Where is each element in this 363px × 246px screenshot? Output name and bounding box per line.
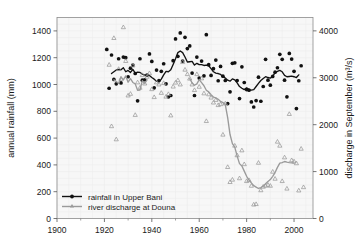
legend-label-discharge: river discharge at Douna — [88, 203, 176, 212]
legend-label-rainfall: rainfall in Upper Bani — [88, 193, 162, 202]
data-point — [240, 65, 244, 69]
y2-tick-label: 4000 — [319, 26, 338, 36]
data-point — [285, 95, 289, 99]
data-point — [193, 94, 197, 98]
data-point — [204, 33, 208, 37]
data-point — [219, 65, 223, 69]
data-point — [268, 83, 272, 87]
data-point — [148, 52, 152, 56]
y-tick-label: 600 — [37, 133, 51, 143]
data-point — [250, 100, 254, 104]
x-tick-label: 1900 — [48, 225, 67, 235]
x-tick-label: 1960 — [190, 225, 209, 235]
data-point — [136, 99, 140, 103]
data-point — [200, 59, 204, 63]
y2-tick-label: 1000 — [319, 167, 338, 177]
data-point — [252, 105, 256, 109]
data-point — [110, 53, 114, 57]
data-point — [297, 79, 301, 83]
x-tick-label: 2000 — [285, 225, 304, 235]
x-tick-label: 1940 — [142, 225, 161, 235]
data-point — [292, 70, 296, 74]
data-point — [117, 57, 121, 61]
y-tick-label: 0 — [46, 214, 51, 224]
data-point — [159, 70, 163, 74]
rainfall-discharge-chart: 1900192019401960198020000200400600800100… — [0, 0, 363, 246]
data-point — [278, 53, 282, 57]
data-point — [188, 44, 192, 48]
data-point — [105, 48, 109, 52]
y-axis-title: annual rainfall (mm) — [6, 78, 16, 158]
data-point — [299, 64, 303, 68]
data-point — [257, 75, 261, 79]
data-point — [233, 61, 237, 65]
data-point — [183, 35, 187, 39]
data-point — [261, 85, 265, 89]
y2-tick-label: 3000 — [319, 73, 338, 83]
y2-axis-title: discharge in September (m³/s) — [344, 57, 354, 178]
data-point — [150, 60, 154, 64]
y-tick-label: 1200 — [32, 53, 51, 63]
data-point — [280, 57, 284, 61]
data-point — [283, 78, 287, 82]
data-point — [178, 31, 182, 35]
data-point — [228, 90, 232, 94]
y2-tick-label: 2000 — [319, 120, 338, 130]
data-point — [155, 68, 159, 72]
y2-tick-label: 0 — [319, 214, 324, 224]
chart-figure: 1900192019401960198020000200400600800100… — [0, 0, 363, 246]
data-point — [276, 66, 280, 70]
y-tick-label: 200 — [37, 187, 51, 197]
data-point — [238, 97, 242, 101]
data-point — [138, 57, 142, 61]
data-point — [287, 52, 291, 56]
x-tick-label: 1980 — [237, 225, 256, 235]
data-point — [174, 37, 178, 41]
data-point — [264, 57, 268, 61]
y-tick-label: 1000 — [32, 80, 51, 90]
data-point — [162, 62, 166, 66]
data-point — [190, 71, 194, 75]
data-point — [107, 86, 111, 90]
data-point — [242, 81, 246, 85]
y-tick-label: 400 — [37, 160, 51, 170]
legend-marker-rainfall — [70, 195, 74, 199]
data-point — [202, 74, 206, 78]
data-point — [214, 58, 218, 62]
data-point — [290, 57, 294, 61]
data-point — [254, 99, 258, 103]
y-tick-label: 1400 — [32, 26, 51, 36]
data-point — [195, 55, 199, 59]
data-point — [209, 74, 213, 78]
y-tick-label: 800 — [37, 106, 51, 116]
data-point — [216, 79, 220, 83]
data-point — [259, 99, 263, 103]
data-point — [266, 78, 270, 82]
data-point — [295, 107, 299, 111]
x-tick-label: 1920 — [95, 225, 114, 235]
